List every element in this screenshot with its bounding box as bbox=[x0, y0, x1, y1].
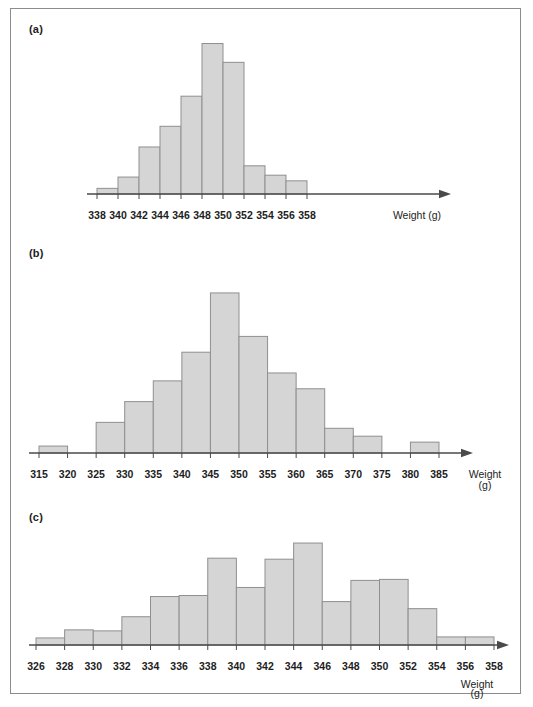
histogram-bar bbox=[265, 559, 294, 645]
histogram-bar bbox=[437, 637, 466, 645]
histogram-bar bbox=[322, 602, 351, 645]
x-axis-tick-label: 320 bbox=[59, 468, 77, 480]
x-axis-tick-label: 348 bbox=[193, 209, 211, 221]
x-axis-tick-label: 385 bbox=[430, 468, 448, 480]
x-axis-tick-label: 340 bbox=[228, 660, 246, 672]
x-axis-tick-label: 332 bbox=[113, 660, 131, 672]
x-axis-tick-label: 375 bbox=[373, 468, 391, 480]
histogram-bar bbox=[353, 436, 382, 453]
histogram-bar bbox=[223, 62, 244, 194]
x-axis-tick-label: 380 bbox=[402, 468, 420, 480]
x-axis-tick-label: 326 bbox=[27, 660, 45, 672]
x-axis-tick-label: 356 bbox=[277, 209, 295, 221]
histogram-bar bbox=[96, 422, 125, 453]
histogram-bar bbox=[265, 175, 286, 194]
histogram-bar bbox=[210, 293, 239, 453]
x-axis-tick-label: 360 bbox=[287, 468, 305, 480]
x-axis-title-units: (g) bbox=[471, 687, 484, 699]
histogram-bar bbox=[286, 181, 307, 194]
x-axis-tick-label: 342 bbox=[256, 660, 274, 672]
x-axis-tick-label: 315 bbox=[30, 468, 48, 480]
x-axis-tick-label: 354 bbox=[428, 660, 446, 672]
histogram-bar bbox=[182, 352, 211, 453]
histogram-bar bbox=[153, 381, 182, 453]
x-axis-tick-label: 330 bbox=[84, 660, 102, 672]
histogram-bar bbox=[244, 166, 265, 194]
x-axis-tick-label: 358 bbox=[485, 660, 503, 672]
histogram-bar bbox=[296, 389, 325, 453]
histogram-bar bbox=[408, 609, 437, 645]
x-axis-arrow-icon bbox=[461, 449, 473, 457]
x-axis-tick-label: 342 bbox=[130, 209, 148, 221]
histogram-bar bbox=[325, 428, 354, 453]
x-axis-arrow-icon bbox=[439, 190, 451, 198]
x-axis-tick-label: 340 bbox=[173, 468, 191, 480]
panel-a: (a) 338340342344346348350352354356358Wei… bbox=[11, 9, 520, 237]
x-axis-tick-label: 334 bbox=[142, 660, 160, 672]
x-axis-tick-label: 354 bbox=[256, 209, 274, 221]
x-axis-tick-label: 356 bbox=[457, 660, 475, 672]
x-axis-title: Weight (g) bbox=[393, 209, 441, 221]
x-axis-tick-label: 338 bbox=[88, 209, 106, 221]
x-axis-tick-label: 335 bbox=[145, 468, 163, 480]
panel-c: (c) 326328330332334336338340342344346348… bbox=[11, 487, 520, 695]
histogram-bar bbox=[239, 336, 268, 453]
histogram-bar bbox=[93, 631, 122, 645]
x-axis-tick-label: 350 bbox=[214, 209, 232, 221]
histogram-bar bbox=[208, 558, 237, 645]
histogram-bar bbox=[36, 638, 65, 645]
x-axis-tick-label: 338 bbox=[199, 660, 217, 672]
panel-b-plot: 3153203253303353403453503553603653703753… bbox=[11, 237, 522, 487]
x-axis-tick-label: 348 bbox=[342, 660, 360, 672]
figure-frame: (a) 338340342344346348350352354356358Wei… bbox=[10, 8, 521, 694]
histogram-bar bbox=[179, 596, 208, 645]
histogram-bar bbox=[151, 597, 180, 645]
histogram-bar bbox=[380, 579, 409, 645]
x-axis-tick-label: 328 bbox=[56, 660, 74, 672]
histogram-bar bbox=[410, 442, 439, 453]
histogram-bar bbox=[39, 446, 68, 453]
x-axis-tick-label: 370 bbox=[345, 468, 363, 480]
panel-b: (b) 315320325330335340345350355360365370… bbox=[11, 237, 520, 487]
x-axis-tick-label: 344 bbox=[151, 209, 169, 221]
histogram-bar bbox=[465, 637, 494, 645]
x-axis-tick-label: 336 bbox=[170, 660, 188, 672]
histogram-bar bbox=[268, 373, 297, 453]
x-axis-tick-label: 340 bbox=[109, 209, 127, 221]
x-axis-tick-label: 365 bbox=[316, 468, 334, 480]
histogram-bar bbox=[139, 147, 160, 194]
panel-c-plot: 3263283303323343363383403423443463483503… bbox=[11, 487, 522, 695]
x-axis-tick-label: 345 bbox=[202, 468, 220, 480]
x-axis-tick-label: 350 bbox=[371, 660, 389, 672]
panel-a-plot: 338340342344346348350352354356358Weight … bbox=[11, 9, 522, 237]
x-axis-tick-label: 352 bbox=[399, 660, 417, 672]
histogram-bar bbox=[125, 402, 154, 453]
histogram-bar bbox=[160, 126, 181, 194]
histogram-bar bbox=[122, 617, 151, 645]
histogram-bar bbox=[351, 580, 380, 645]
histogram-bar bbox=[236, 587, 265, 645]
x-axis-tick-label: 350 bbox=[230, 468, 248, 480]
x-axis-tick-label: 358 bbox=[298, 209, 316, 221]
histogram-bar bbox=[294, 543, 323, 645]
x-axis-arrow-icon bbox=[497, 641, 509, 649]
x-axis-tick-label: 344 bbox=[285, 660, 303, 672]
x-axis-tick-label: 346 bbox=[172, 209, 190, 221]
x-axis-tick-label: 352 bbox=[235, 209, 253, 221]
histogram-bar bbox=[181, 96, 202, 194]
histogram-bar bbox=[202, 44, 223, 194]
histogram-bar bbox=[97, 188, 118, 194]
histogram-bar bbox=[118, 177, 139, 194]
x-axis-tick-label: 346 bbox=[313, 660, 331, 672]
x-axis-tick-label: 330 bbox=[116, 468, 134, 480]
x-axis-tick-label: 325 bbox=[87, 468, 105, 480]
x-axis-tick-label: 355 bbox=[259, 468, 277, 480]
histogram-bar bbox=[65, 630, 94, 645]
